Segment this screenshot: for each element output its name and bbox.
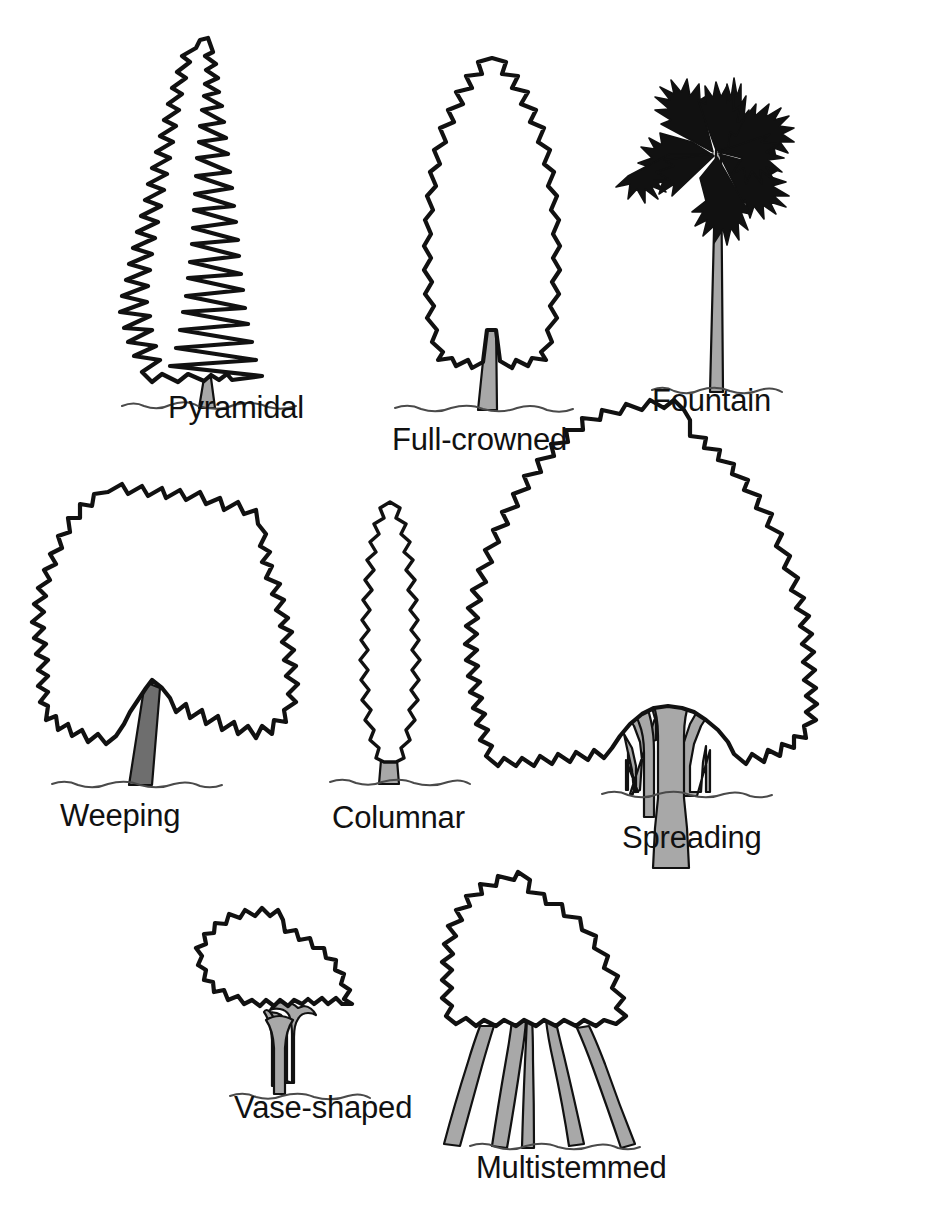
weeping-crown	[32, 484, 298, 744]
tree-forms-illustration: .crown { fill:#ffffff; stroke:#111111; s…	[0, 0, 932, 1218]
tree-forms-figure: .crown { fill:#ffffff; stroke:#111111; s…	[0, 0, 932, 1218]
vase-shaped-crown	[196, 908, 352, 1006]
label-spreading: Spreading	[622, 822, 762, 853]
label-pyramidal: Pyramidal	[168, 392, 304, 423]
label-full-crowned: Full-crowned	[392, 424, 567, 455]
full-crowned-crown	[424, 58, 560, 368]
tree-pyramidal	[120, 38, 296, 409]
label-fountain: Fountain	[652, 385, 771, 416]
tree-vase-shaped	[196, 908, 370, 1099]
tree-columnar	[330, 502, 470, 785]
multistemmed-stems	[444, 1018, 635, 1148]
fountain-fronds	[616, 78, 794, 245]
label-columnar: Columnar	[332, 802, 465, 833]
label-multistemmed: Multistemmed	[476, 1152, 667, 1183]
tree-multistemmed	[442, 872, 640, 1149]
tree-weeping	[32, 484, 298, 787]
tree-fountain	[616, 78, 794, 393]
pyramidal-crown	[120, 38, 262, 382]
label-vase-shaped: Vase-shaped	[234, 1092, 412, 1123]
label-weeping: Weeping	[60, 800, 180, 831]
columnar-crown	[360, 502, 420, 762]
tree-spreading	[465, 400, 817, 868]
tree-full-crowned	[395, 58, 573, 412]
multistemmed-crown	[442, 872, 626, 1026]
